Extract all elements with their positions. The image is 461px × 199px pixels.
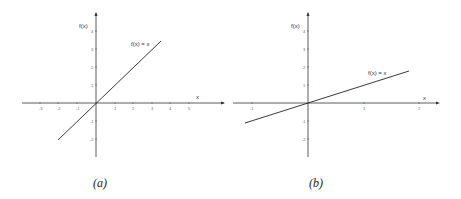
function-line bbox=[245, 71, 409, 123]
function-annotation: f(x) = x bbox=[131, 41, 150, 47]
y-tick-label: 3 bbox=[303, 47, 306, 52]
function-annotation: f(x) = x bbox=[368, 70, 387, 76]
x-tick-label: -1 bbox=[250, 106, 254, 111]
y-tick-label: -1 bbox=[90, 119, 94, 124]
y-tick-label: -1 bbox=[302, 119, 306, 124]
y-axis-arrow-icon bbox=[95, 12, 98, 16]
y-tick-label: -2 bbox=[90, 137, 94, 142]
figure: -3 -2 -1 1 2 3 4 5 4 3 2 1 -1 -2 f(x) x … bbox=[0, 0, 461, 199]
x-tick-label: -2 bbox=[57, 106, 61, 111]
x-tick-label: 2 bbox=[132, 106, 135, 111]
x-axis-arrow-icon bbox=[436, 102, 440, 105]
panel-a: -3 -2 -1 1 2 3 4 5 4 3 2 1 -1 -2 f(x) x … bbox=[22, 12, 225, 190]
panel-b: -1 1 2 4 3 2 1 -1 -2 f(x) x f(x) = x (b) bbox=[233, 12, 440, 190]
y-tick-label: 3 bbox=[91, 47, 94, 52]
x-axis-label: x bbox=[423, 95, 426, 101]
x-tick-label: -3 bbox=[39, 106, 43, 111]
x-tick-label: 2 bbox=[418, 106, 421, 111]
x-tick-label: 1 bbox=[363, 106, 366, 111]
x-tick-label: 4 bbox=[169, 106, 172, 111]
y-tick-label: 4 bbox=[303, 29, 306, 34]
y-tick-label: 2 bbox=[91, 65, 94, 70]
y-tick-label: 1 bbox=[91, 83, 94, 88]
x-tick-label: 3 bbox=[151, 106, 154, 111]
panel-caption: (a) bbox=[93, 176, 107, 190]
function-line bbox=[58, 41, 161, 140]
y-axis-label: f(x) bbox=[291, 23, 300, 29]
y-tick-label: 2 bbox=[303, 65, 306, 70]
x-tick-label: 1 bbox=[114, 106, 117, 111]
panel-caption: (b) bbox=[309, 176, 323, 190]
x-tick-label: 5 bbox=[188, 106, 191, 111]
x-axis-arrow-icon bbox=[221, 102, 225, 105]
x-axis-label: x bbox=[196, 94, 199, 100]
y-axis-label: f(x) bbox=[79, 23, 88, 29]
y-tick-label: 1 bbox=[303, 83, 306, 88]
y-tick-label: -2 bbox=[302, 137, 306, 142]
y-axis-arrow-icon bbox=[307, 12, 310, 16]
y-tick-label: 4 bbox=[91, 29, 94, 34]
x-tick-label: -1 bbox=[76, 106, 80, 111]
